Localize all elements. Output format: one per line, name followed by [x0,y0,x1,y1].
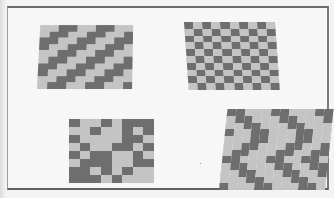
weave-cell [90,143,101,151]
weave-cell [101,127,112,135]
weave-cell [258,36,268,43]
weave-cell [224,70,234,77]
weave-cell [186,49,196,56]
weave-cell [268,49,278,56]
weave-cell [240,36,250,43]
weave-cell [196,70,206,77]
weave-cell [270,76,280,83]
swatch-block-weave [69,119,154,183]
weave-cell [257,29,267,36]
weave-cell [143,143,154,151]
weave-cell [90,127,101,135]
weave-cell [197,83,207,90]
weave-cell [101,119,112,127]
weave-cell [80,143,91,151]
weave-cell [123,82,133,89]
weave-cell [112,119,123,127]
weave-cell [185,42,195,49]
weave-cell [324,109,334,116]
weave-cell [250,56,260,63]
weave-cell [101,143,112,151]
weave-cell [204,42,214,49]
weave-cell [223,63,233,70]
weave-cell [101,159,112,167]
weave-cell [203,36,213,43]
weave-cell [188,83,198,90]
weave-cell [323,123,333,130]
weave-cell [251,63,261,70]
weave-cell [250,49,260,56]
weave-cell [69,143,80,151]
weave-cell [239,22,249,29]
weave-cell [112,127,123,135]
weave-cell [243,83,253,90]
weave-cell [317,177,327,184]
weave-cell [69,159,80,167]
weave-cell [90,167,101,175]
weave-cell [232,56,242,63]
weave-cell [143,159,154,167]
weave-cell [69,151,80,159]
weave-cell [205,56,215,63]
weave-cell [230,29,240,36]
weave-cell [231,49,241,56]
weave-cell [188,76,198,83]
weave-cell [112,151,123,159]
weave-cell [133,127,144,135]
weave-cell [90,151,101,159]
weave-cell [266,22,276,29]
weave-cell [69,167,80,175]
weave-cell [133,135,144,143]
weave-cell [259,49,269,56]
weave-cell [267,42,277,49]
weave-cell [122,143,133,151]
weave-cell [101,167,112,175]
weave-cell [205,63,215,70]
weave-cell [230,22,240,29]
weave-cell [101,151,112,159]
weave-cell [85,82,95,89]
weave-cell [224,76,234,83]
weave-cell [260,70,270,77]
weave-cell [187,63,197,70]
weave-cell [122,119,133,127]
weave-cell [203,29,213,36]
weave-cell [80,151,91,159]
weave-cell [222,49,232,56]
weave-cell [47,82,57,89]
weave-cell [213,42,223,49]
weave-cell [122,135,133,143]
weave-cell [143,151,154,159]
weave-cell [122,151,133,159]
weave-cell [69,175,80,183]
weave-cell [242,76,252,83]
weave-cell [90,175,101,183]
weave-cell [234,83,244,90]
weave-cell [233,70,243,77]
weave-cell [323,116,333,123]
weave-cell [206,70,216,77]
weave-cell [133,143,144,151]
weave-cell [133,175,144,183]
weave-cell [240,49,250,56]
weave-cell [80,167,91,175]
weave-cell [206,76,216,83]
weave-cell [239,29,249,36]
weave-cell [122,167,133,175]
weave-cell [194,29,204,36]
weave-cell [221,36,231,43]
weave-cell [80,127,91,135]
weave-cell [257,22,267,29]
weave-cell [69,127,80,135]
weave-cell [241,56,251,63]
weave-cell [197,76,207,83]
weave-cell [143,175,154,183]
weave-cell [211,22,221,29]
weave-cell [261,83,271,90]
weave-cell [260,63,270,70]
weave-cell [215,70,225,77]
weave-cell [133,167,144,175]
weave-cell [221,29,231,36]
weave-cell [143,127,154,135]
weave-cell [232,63,242,70]
